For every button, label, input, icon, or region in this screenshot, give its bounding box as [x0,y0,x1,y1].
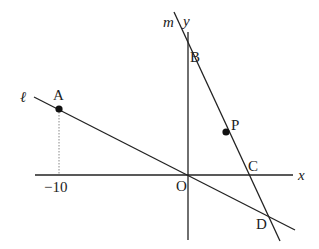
point-d-label: D [256,216,267,232]
line-m [174,12,280,241]
point-p-label: P [231,117,239,133]
origin-label: O [176,178,187,194]
point-c-label: C [248,158,258,174]
point-b-label: B [190,49,200,65]
line-l-label: ℓ [20,89,26,105]
coordinate-diagram: ℓ m y x A B P C D O −10 [0,0,319,249]
y-axis-label: y [181,13,190,29]
tick-label-neg10: −10 [44,179,67,195]
point-p-marker [222,128,229,135]
point-a-label: A [53,87,64,103]
point-a-marker [55,105,62,112]
line-m-label: m [163,14,174,30]
x-axis-label: x [297,167,305,183]
